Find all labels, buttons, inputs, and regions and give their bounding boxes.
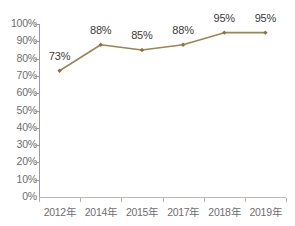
x-axis-tick-mark bbox=[121, 198, 122, 202]
y-axis-tick-label: 90% bbox=[3, 35, 37, 46]
x-axis-tick-mark bbox=[163, 198, 164, 202]
x-axis-tick-label: 2018年 bbox=[204, 203, 245, 223]
series-line bbox=[39, 24, 286, 197]
data-point-label: 95% bbox=[214, 12, 235, 24]
data-point-label: 95% bbox=[255, 12, 276, 24]
data-point-label: 85% bbox=[131, 29, 152, 41]
data-point-marker bbox=[140, 48, 144, 52]
x-axis-tick-label: 2017年 bbox=[163, 203, 204, 223]
x-axis-tick-mark bbox=[245, 198, 246, 202]
data-point-marker bbox=[181, 43, 185, 47]
data-point-label: 88% bbox=[90, 24, 111, 36]
y-axis-labels: 0%10%20%30%40%50%60%70%80%90%100% bbox=[0, 0, 37, 226]
y-axis-tick-label: 20% bbox=[3, 156, 37, 167]
y-axis-tick-label: 50% bbox=[3, 105, 37, 116]
x-axis-tick-mark bbox=[39, 198, 40, 202]
line-chart: 0%10%20%30%40%50%60%70%80%90%100% 73%88%… bbox=[0, 0, 295, 226]
y-axis-tick-label: 30% bbox=[3, 139, 37, 150]
x-axis-labels: 2012年2014年2015年2017年2018年2019年 bbox=[39, 203, 286, 223]
plot-area bbox=[39, 24, 286, 197]
x-axis-tick-mark bbox=[80, 198, 81, 202]
series-polyline bbox=[60, 33, 266, 71]
y-axis-tick-label: 60% bbox=[3, 87, 37, 98]
x-axis-tick-mark bbox=[286, 198, 287, 202]
x-axis-tick-label: 2012年 bbox=[39, 203, 80, 223]
y-axis-tick-label: 0% bbox=[3, 191, 37, 202]
y-axis-tick-label: 70% bbox=[3, 70, 37, 81]
x-axis-tick-label: 2014年 bbox=[80, 203, 121, 223]
y-axis-tick-label: 100% bbox=[3, 18, 37, 29]
x-axis-tick-label: 2019年 bbox=[245, 203, 286, 223]
data-point-label: 73% bbox=[49, 50, 70, 62]
y-axis-tick-label: 40% bbox=[3, 122, 37, 133]
data-point-marker bbox=[263, 30, 267, 34]
data-point-label: 88% bbox=[172, 24, 193, 36]
data-point-marker bbox=[222, 30, 226, 34]
x-axis-tick-label: 2015年 bbox=[121, 203, 162, 223]
x-axis-tick-mark bbox=[204, 198, 205, 202]
y-axis-tick-label: 80% bbox=[3, 53, 37, 64]
y-axis-tick-label: 10% bbox=[3, 174, 37, 185]
